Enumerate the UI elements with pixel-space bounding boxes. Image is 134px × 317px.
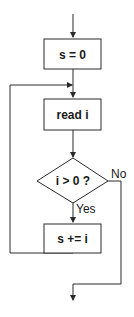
node-accum-label: s += i bbox=[57, 232, 88, 246]
node-cond-label: i > 0 ? bbox=[56, 174, 90, 188]
node-init-label: s = 0 bbox=[59, 48, 86, 62]
node-init: s = 0 bbox=[44, 39, 101, 69]
node-accum: s += i bbox=[44, 224, 101, 253]
edge-label-yes: Yes bbox=[76, 202, 96, 216]
node-read-label: read i bbox=[56, 108, 88, 122]
node-cond: i > 0 ? bbox=[37, 158, 108, 203]
flowchart: s = 0 read i i > 0 ? No Yes s += i bbox=[0, 0, 134, 317]
edge-label-no: No bbox=[111, 167, 127, 181]
node-read: read i bbox=[44, 99, 101, 130]
